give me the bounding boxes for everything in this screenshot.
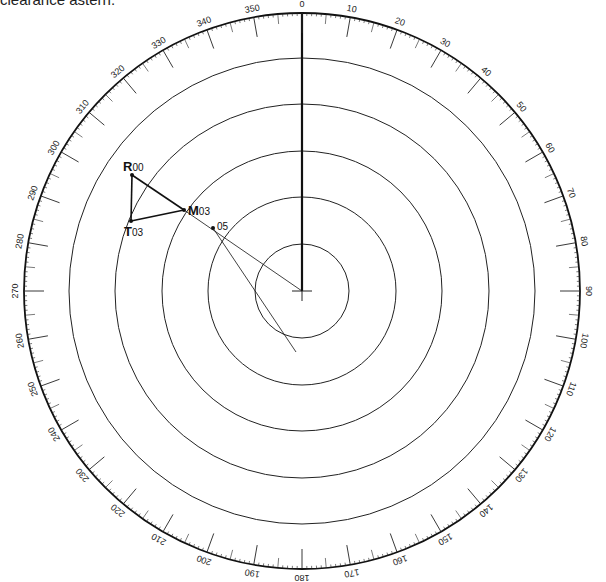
- bearing-tick: [185, 39, 189, 48]
- bearing-tick: [325, 558, 326, 568]
- bearing-tick: [25, 267, 35, 268]
- bearing-tick: [230, 550, 233, 560]
- bearing-tick: [254, 17, 257, 37]
- bearing-label: 260: [14, 333, 26, 350]
- bearing-tick: [347, 545, 350, 565]
- bearing-tick: [102, 98, 104, 100]
- bearing-label: 340: [195, 14, 213, 29]
- bearing-tick: [99, 479, 101, 481]
- bearing-label: 180: [294, 573, 309, 582]
- bearing-label: 20: [394, 15, 407, 28]
- bearing-label: 100: [578, 333, 590, 350]
- bearing-tick: [468, 78, 481, 93]
- bearing-tick: [185, 534, 189, 543]
- bearing-label: 80: [578, 235, 590, 247]
- bearing-tick: [95, 105, 97, 107]
- bearing-tick: [456, 63, 462, 71]
- t-to-m-line: [131, 210, 184, 221]
- bearing-tick: [561, 360, 571, 363]
- bearing-tick: [74, 445, 82, 451]
- bearing-tick: [525, 420, 542, 430]
- bearing-label: 60: [543, 141, 557, 155]
- bearing-tick: [431, 514, 441, 531]
- bearing-tick: [25, 314, 35, 315]
- bearing-label: 190: [244, 567, 261, 579]
- bearing-tick: [506, 475, 508, 477]
- bearing-tick: [556, 243, 576, 246]
- r-to-t-line: [131, 175, 132, 221]
- point-label-M03: M03: [188, 203, 210, 218]
- bearing-tick: [506, 105, 508, 107]
- bearing-tick: [89, 112, 104, 125]
- bearing-tick: [116, 495, 118, 497]
- bearing-tick: [431, 50, 441, 67]
- bearing-tick: [493, 91, 495, 93]
- point-label-T03: T03: [124, 224, 144, 239]
- bearing-tick: [89, 457, 104, 470]
- bearing-label: 30: [438, 36, 452, 50]
- bearing-tick: [105, 94, 112, 101]
- bearing-tick: [230, 22, 233, 32]
- bearing-tick: [482, 499, 484, 501]
- bearing-tick: [486, 84, 488, 86]
- bearing-tick: [492, 481, 499, 488]
- bearing-tick: [456, 511, 462, 519]
- m-to-center-line: [184, 210, 302, 291]
- bearing-label: 270: [10, 283, 20, 298]
- bearing-label: 50: [515, 100, 529, 114]
- bearing-tick: [325, 14, 326, 24]
- bearing-tick: [74, 132, 82, 138]
- bearing-tick: [105, 481, 112, 488]
- bearing-tick: [41, 379, 60, 386]
- bearing-tick: [278, 14, 279, 24]
- bearing-tick: [92, 109, 94, 111]
- bearing-tick: [522, 132, 530, 138]
- bearing-tick: [112, 492, 114, 494]
- bearing-tick: [482, 81, 484, 83]
- bearing-tick: [207, 30, 214, 49]
- bearing-tick: [61, 152, 78, 162]
- bearing-label: 250: [25, 380, 40, 398]
- bearing-label: 10: [346, 3, 358, 15]
- bearing-tick: [28, 336, 48, 339]
- bearing-tick: [143, 511, 149, 519]
- bearing-tick: [123, 489, 136, 504]
- bearing-tick: [492, 94, 499, 101]
- plot-lines: [131, 175, 302, 352]
- bearing-tick: [33, 219, 43, 222]
- bearing-label: 90: [584, 286, 594, 296]
- bearing-tick: [415, 39, 419, 48]
- bearing-tick: [500, 98, 502, 100]
- bearing-label: 350: [244, 3, 261, 15]
- bearing-tick: [123, 78, 136, 93]
- bearing-label: 40: [479, 64, 493, 78]
- bearing-label: 0: [299, 0, 304, 9]
- bearing-tick: [556, 336, 576, 339]
- bearing-tick: [468, 489, 481, 504]
- bearing-tick: [525, 152, 542, 162]
- bearing-tick: [490, 492, 492, 494]
- bearing-label: 200: [195, 553, 213, 568]
- bearing-tick: [254, 545, 257, 565]
- bearing-tick: [41, 196, 60, 203]
- bearing-tick: [28, 243, 48, 246]
- bearing-tick: [544, 379, 563, 386]
- bearing-tick: [109, 489, 111, 491]
- bearing-tick: [500, 457, 515, 470]
- point-label-05: 05: [217, 221, 229, 232]
- bearing-tick: [92, 471, 94, 473]
- bearing-tick: [390, 533, 397, 552]
- bearing-tick: [207, 533, 214, 552]
- bearing-label: 290: [25, 184, 40, 202]
- bearing-tick: [569, 314, 579, 315]
- maneuvering-board: 0102030405060708090100110120130140150160…: [0, 0, 606, 582]
- bearing-tick: [278, 558, 279, 568]
- point-M03: [182, 208, 186, 212]
- bearing-tick: [510, 109, 512, 111]
- bearing-tick: [50, 174, 59, 178]
- bearing-tick: [486, 495, 488, 497]
- bearing-tick: [116, 84, 118, 86]
- bearing-tick: [112, 88, 114, 90]
- bearing-tick: [522, 445, 530, 451]
- o5-to-cpa-line: [213, 228, 296, 352]
